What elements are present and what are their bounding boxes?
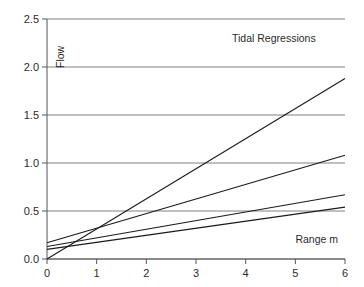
y-tick-label: 1.0 bbox=[24, 157, 39, 169]
y-axis-title: Flow bbox=[54, 45, 66, 68]
y-tick-label: 0.5 bbox=[24, 205, 39, 217]
x-axis-title: Range m bbox=[295, 233, 338, 245]
y-tick-label: 2.5 bbox=[24, 13, 39, 25]
tidal-regressions-chart: 0.00.51.01.52.02.5 0123456 Flow Range m … bbox=[0, 0, 364, 287]
chart-container: 0.00.51.01.52.02.5 0123456 Flow Range m … bbox=[0, 0, 364, 287]
y-tick-label: 2.0 bbox=[24, 61, 39, 73]
x-tick-label: 4 bbox=[243, 267, 249, 279]
y-tick-label: 0.0 bbox=[24, 253, 39, 265]
x-tick-label: 0 bbox=[44, 267, 50, 279]
x-tick-label: 1 bbox=[94, 267, 100, 279]
y-tick-label: 1.5 bbox=[24, 109, 39, 121]
chart-title: Tidal Regressions bbox=[232, 32, 316, 44]
x-tick-label: 5 bbox=[292, 267, 298, 279]
x-tick-label: 2 bbox=[143, 267, 149, 279]
x-tick-label: 3 bbox=[193, 267, 199, 279]
x-tick-label: 6 bbox=[342, 267, 348, 279]
